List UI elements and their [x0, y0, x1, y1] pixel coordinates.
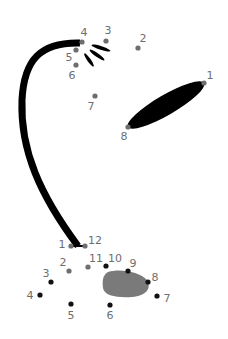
bottom-dot-6 — [107, 302, 112, 307]
top-dot-label: 6 — [69, 69, 76, 82]
bottom-dot-label: 9 — [130, 257, 137, 270]
bottom-dot-12 — [82, 243, 87, 248]
bottom-dot-label: 4 — [27, 289, 34, 302]
bottom-dot-label: 12 — [88, 234, 102, 247]
top-dot-4 — [79, 39, 84, 44]
stone-shape — [103, 270, 149, 297]
top-dot-6 — [73, 62, 78, 67]
leaf-shape — [123, 74, 209, 135]
bottom-dot-8 — [145, 279, 150, 284]
top-dot-3 — [103, 38, 108, 43]
top-dot-label: 5 — [66, 51, 73, 64]
bottom-dot-label: 6 — [107, 309, 114, 322]
bottom-dot-label: 8 — [152, 271, 159, 284]
bottom-dot-label: 11 — [89, 252, 103, 265]
bottom-dot-label: 1 — [59, 238, 66, 251]
bottom-dot-label: 5 — [68, 309, 75, 322]
top-dot-label: 3 — [105, 24, 112, 37]
bottom-dot-label: 3 — [43, 267, 50, 280]
top-dot-2 — [135, 45, 140, 50]
bottom-dot-label: 7 — [164, 292, 171, 305]
top-dot-label: 7 — [88, 100, 95, 113]
bottom-dot-5 — [68, 301, 73, 306]
bottom-dot-2 — [66, 268, 71, 273]
bottom-dot-label: 2 — [60, 256, 67, 269]
top-dot-label: 4 — [81, 26, 88, 39]
petal-strokes — [83, 43, 111, 67]
bottom-dot-7 — [154, 293, 159, 298]
bottom-dot-group: 123456789101112 — [27, 234, 171, 322]
top-dot-5 — [73, 47, 78, 52]
bottom-dot-label: 10 — [108, 252, 122, 265]
puzzle-canvas: 12345678 123456789101112 — [0, 0, 228, 339]
bottom-dot-11 — [85, 264, 90, 269]
top-dot-label: 8 — [121, 130, 128, 143]
bottom-dot-4 — [37, 292, 42, 297]
top-dot-label: 2 — [140, 32, 147, 45]
top-dot-8 — [125, 124, 130, 129]
bottom-dot-1 — [68, 243, 73, 248]
top-dot-7 — [92, 93, 97, 98]
top-dot-label: 1 — [207, 69, 214, 82]
bottom-dot-3 — [48, 279, 53, 284]
